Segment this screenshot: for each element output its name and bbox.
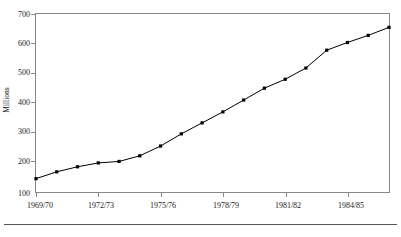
data-point bbox=[304, 66, 307, 69]
x-tick-label-4: 1978/79 bbox=[213, 201, 239, 210]
x-tick-label-6: 1984/85 bbox=[338, 201, 364, 210]
x-tick-label-5: 1981/82 bbox=[275, 201, 301, 210]
data-point bbox=[76, 165, 79, 168]
data-point bbox=[138, 154, 141, 157]
y-axis-ticks bbox=[31, 14, 35, 162]
data-point bbox=[367, 34, 370, 37]
line-chart: Millions 700 600 500 400 300 200 100 bbox=[0, 0, 401, 237]
chart-figure: Millions 700 600 500 400 300 200 100 bbox=[0, 0, 401, 237]
x-axis-ticks bbox=[36, 193, 349, 197]
y-tick-label-400: 400 bbox=[18, 98, 30, 107]
y-tick-label-200: 200 bbox=[18, 157, 30, 166]
series-line-millions bbox=[36, 27, 389, 178]
data-point bbox=[34, 177, 37, 180]
x-tick-label-2: 1972/73 bbox=[88, 201, 114, 210]
data-point bbox=[117, 160, 120, 163]
data-point bbox=[97, 161, 100, 164]
data-point bbox=[346, 41, 349, 44]
data-point bbox=[55, 170, 58, 173]
series-markers bbox=[34, 26, 390, 181]
y-axis-title: Millions bbox=[2, 87, 11, 113]
data-point bbox=[387, 26, 390, 29]
data-point bbox=[201, 121, 204, 124]
data-point bbox=[180, 132, 183, 135]
data-point bbox=[263, 87, 266, 90]
data-point bbox=[325, 49, 328, 52]
data-point bbox=[159, 144, 162, 147]
y-tick-label-700: 700 bbox=[18, 10, 30, 19]
data-point bbox=[284, 78, 287, 81]
x-tick-label-1: 1969/70 bbox=[27, 201, 53, 210]
y-tick-label-300: 300 bbox=[18, 127, 30, 136]
data-point bbox=[221, 110, 224, 113]
data-point bbox=[242, 98, 245, 101]
x-tick-label-3: 1975/76 bbox=[150, 201, 176, 210]
y-tick-label-600: 600 bbox=[18, 39, 30, 48]
y-tick-label-500: 500 bbox=[18, 68, 30, 77]
y-tick-label-100: 100 bbox=[18, 189, 30, 198]
